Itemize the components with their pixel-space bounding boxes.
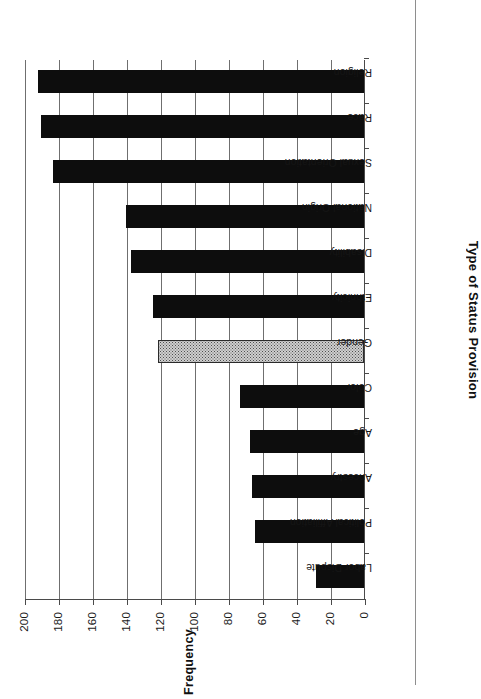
bar[interactable]: [250, 430, 364, 453]
x-axis-category-label-text: Labor Dispute: [306, 563, 372, 574]
y-axis-tick: [365, 599, 366, 605]
x-axis-category-label-text: Ancestry: [331, 473, 372, 484]
x-axis-category-label-text: Color: [347, 383, 372, 394]
y-axis-tick-label: 180: [53, 612, 65, 658]
y-axis-tick-label: 80: [223, 612, 235, 658]
x-axis-tick: [364, 553, 369, 554]
x-axis-tick: [364, 328, 369, 329]
y-axis-tick: [331, 599, 332, 605]
y-axis-tick-label: 140: [121, 612, 133, 658]
x-axis-tick: [364, 103, 369, 104]
bar[interactable]: [38, 70, 364, 93]
y-axis-title: Frequency: [182, 602, 196, 699]
x-axis-tick: [364, 148, 369, 149]
x-axis-category-label-text: Disability: [329, 248, 372, 259]
y-axis-tick-label: 0: [359, 612, 371, 658]
x-axis-category-label-text: National Origin: [302, 203, 372, 214]
bar[interactable]: [158, 340, 364, 363]
gridline: [93, 60, 94, 599]
y-axis-tick: [161, 599, 162, 605]
x-axis-category-label-text: Gender: [337, 338, 372, 349]
scan-page-edge: [415, 0, 416, 685]
x-axis-tick: [364, 58, 369, 59]
gridline: [263, 60, 264, 599]
chart-area: 020406080100120140160180200 Frequency Ty…: [0, 0, 400, 600]
x-axis-title: Type of Status Provision: [466, 190, 481, 450]
x-axis-category-label-text: Sexual Orientation: [285, 158, 372, 169]
y-axis-tick: [297, 599, 298, 605]
x-axis-category-label-text: Age: [353, 428, 372, 439]
bar[interactable]: [41, 115, 364, 138]
gridline: [195, 60, 196, 599]
x-axis-category-label-text: Political Affiliation: [290, 518, 372, 529]
y-axis-tick-label: 200: [19, 612, 31, 658]
y-axis-tick-label: 160: [87, 612, 99, 658]
y-axis-tick-label: 40: [291, 612, 303, 658]
y-axis-tick: [127, 599, 128, 605]
y-axis-tick-label: 20: [325, 612, 337, 658]
gridline: [161, 60, 162, 599]
x-axis-category-label-text: Religion: [334, 68, 372, 79]
y-axis-tick: [263, 599, 264, 605]
x-axis-tick: [364, 508, 369, 509]
x-axis-category-label-text: Race: [347, 113, 372, 124]
gridline: [25, 60, 26, 599]
x-axis-tick: [364, 193, 369, 194]
gridline: [59, 60, 60, 599]
x-axis-tick: [364, 283, 369, 284]
y-axis-tick-label: 120: [155, 612, 167, 658]
bar-chart: 020406080100120140160180200 Frequency Ty…: [0, 0, 400, 600]
gridline: [127, 60, 128, 599]
y-axis-tick: [93, 599, 94, 605]
x-axis-tick: [364, 238, 369, 239]
y-axis-tick: [25, 599, 26, 605]
x-axis-tick: [364, 418, 369, 419]
y-axis-tick: [229, 599, 230, 605]
x-axis-category-label-text: Ethnicity: [332, 293, 372, 304]
gridline: [229, 60, 230, 599]
x-axis-tick: [364, 463, 369, 464]
x-axis-tick: [364, 373, 369, 374]
y-axis-tick-label: 60: [257, 612, 269, 658]
bar[interactable]: [240, 385, 364, 408]
y-axis-tick: [59, 599, 60, 605]
